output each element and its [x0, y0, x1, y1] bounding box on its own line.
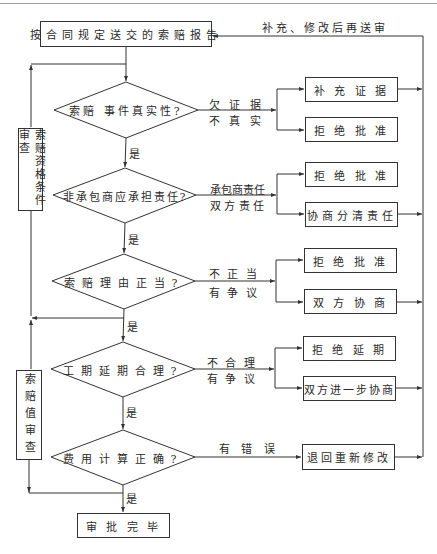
connector-d2-d3	[124, 223, 125, 253]
end-box-label: 审 批 完 毕	[86, 518, 162, 534]
decision-4-yes-label: 是	[126, 404, 137, 420]
decision-3-branch-label-1: 不 正 当	[209, 265, 259, 281]
outcome-reject-2: 拒 绝 批 准	[305, 162, 398, 187]
decision-4-question: 工期延期合理?	[63, 362, 184, 378]
outcome-label: 拒 绝 批 准	[313, 253, 389, 269]
decision-2-question: 非承包商应承担责任?	[63, 188, 188, 204]
outcome-mutual-negotiation: 双 方 协 商	[304, 289, 397, 314]
start-box-label: 按合同规定送交的索赔报告	[30, 26, 222, 42]
outcome-reject-extension: 拒 绝 延 期	[303, 336, 396, 361]
outcome-negotiate-responsibility: 协商分清责任	[305, 202, 398, 227]
outcome-further-negotiation: 双方进一步协商	[303, 376, 396, 401]
decision-4-branch-label-1: 不 合 理	[207, 354, 257, 370]
decision-5-yes-label: 是	[126, 490, 137, 506]
end-box-approval-complete: 审 批 完 毕	[77, 513, 170, 538]
outcome-label: 补 充 证 据	[314, 82, 390, 98]
decision-3-branch-label-2: 有 争 议	[209, 284, 259, 300]
start-box-claim-report: 按合同规定送交的索赔报告	[40, 21, 212, 47]
connector-d3-d4	[123, 309, 124, 341]
outcome-reject-1: 拒 绝 批 准	[305, 117, 398, 142]
decision-1-branch-label-2: 不 真 实	[209, 112, 264, 128]
decision-1-branch-label-1: 欠 证 据	[209, 96, 264, 112]
outcome-supplement-evidence: 补 充 证 据	[305, 77, 398, 102]
decision-2-branch-label-2: 双 方 责 任	[210, 197, 265, 213]
decision-3-question: 索赔理由正当?	[64, 274, 185, 290]
decision-5-branch-label-1: 有 错 误	[219, 440, 279, 456]
decision-2-yes-label: 是	[128, 231, 139, 247]
outcome-label: 拒 绝 批 准	[314, 167, 390, 183]
outcome-label: 拒 绝 批 准	[314, 122, 390, 138]
outcome-return-revise: 退回重新修改	[302, 444, 395, 470]
decision-1-question: 索赔 事件真实性?	[69, 102, 182, 118]
outcome-reject-3: 拒 绝 批 准	[304, 248, 397, 273]
side-box-value-review: 索赔值审查	[16, 370, 42, 460]
feedback-label: 补充、修改后再送审	[262, 19, 388, 35]
outcome-label: 退回重新修改	[307, 449, 391, 465]
outcome-label: 双方进一步协商	[304, 381, 395, 397]
connector-d1-d2	[125, 138, 126, 167]
decision-5-question: 费用计算正确?	[63, 450, 184, 466]
decision-1-yes-label: 是	[129, 145, 140, 161]
outcome-label: 协商分清责任	[307, 207, 397, 223]
outcome-label: 拒 绝 延 期	[312, 341, 388, 357]
side-box-qualification-review: 索赔资格条件审查	[18, 128, 43, 211]
decision-4-branch-label-2: 有 争 议	[207, 370, 257, 386]
side-box-qualification-label: 索赔资格条件审查	[15, 129, 47, 210]
decision-2-branch-label-1: 承包商责任	[210, 181, 265, 197]
decision-3-yes-label: 是	[127, 318, 138, 334]
side-box-value-label: 索赔值审查	[21, 373, 37, 458]
outcome-label: 双 方 协 商	[313, 294, 389, 310]
